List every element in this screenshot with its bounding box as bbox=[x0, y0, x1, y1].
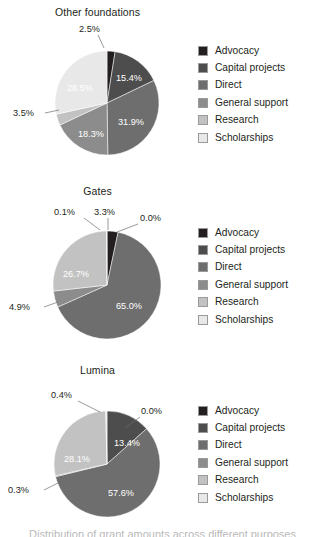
legend-item[interactable]: Scholarships bbox=[198, 489, 325, 506]
pie-graphic-0: 15.4%31.9%18.3%28.5%2.5%3.5% bbox=[0, 18, 195, 178]
footer-caption: Distribution of grant amounts across dif… bbox=[0, 528, 325, 537]
pie-graphic-2: 13.4%57.6%28.1%0.4%0.0%0.3% bbox=[0, 376, 195, 536]
pie-slice bbox=[54, 411, 107, 476]
legend-item[interactable]: Advocacy bbox=[198, 224, 325, 241]
leader-line bbox=[44, 483, 58, 490]
legend-item-label: Research bbox=[215, 297, 259, 307]
legend-swatch-icon bbox=[198, 98, 208, 108]
legend-swatch-icon bbox=[198, 80, 208, 90]
legend-item-label: Scholarships bbox=[215, 133, 273, 143]
legend-swatch-icon bbox=[198, 115, 208, 125]
legend-swatch-icon bbox=[198, 280, 208, 290]
legend-item-label: Advocacy bbox=[215, 46, 259, 56]
legend-item[interactable]: Direct bbox=[198, 259, 325, 276]
pie-slice bbox=[53, 231, 107, 291]
legend-item-label: Scholarships bbox=[215, 315, 273, 325]
legend-item[interactable]: Scholarships bbox=[198, 311, 325, 328]
legend-item-label: Research bbox=[215, 115, 259, 125]
legend-item[interactable]: Capital projects bbox=[198, 419, 325, 436]
legend-item[interactable]: Direct bbox=[198, 77, 325, 94]
legend-item[interactable]: Research bbox=[198, 294, 325, 311]
pie-chart-gates: Gates 65.0%26.7%0.1%3.3%0.0%4.9% Advocac… bbox=[0, 179, 325, 358]
slice-value-label: 2.5% bbox=[79, 24, 100, 34]
pie-chart-other-foundations: Other foundations 15.4%31.9%18.3%28.5%2.… bbox=[0, 0, 325, 179]
legend-item-label: Advocacy bbox=[215, 228, 259, 238]
legend-item-label: General support bbox=[215, 280, 288, 290]
legend-item-label: General support bbox=[215, 98, 288, 108]
legend-item[interactable]: General support bbox=[198, 94, 325, 111]
legend-item-label: Direct bbox=[215, 80, 242, 90]
legend-item-label: Capital projects bbox=[215, 245, 285, 255]
legend-0: AdvocacyCapital projectsDirectGeneral su… bbox=[198, 42, 325, 146]
legend-swatch-icon bbox=[198, 475, 208, 485]
legend-swatch-icon bbox=[198, 440, 208, 450]
slice-value-label: 28.5% bbox=[67, 83, 93, 93]
legend-swatch-icon bbox=[198, 297, 208, 307]
slice-value-label: 57.6% bbox=[108, 488, 134, 498]
slice-value-label: 28.1% bbox=[64, 454, 90, 464]
legend-swatch-icon bbox=[198, 458, 208, 468]
legend-swatch-icon bbox=[198, 423, 208, 433]
legend-item[interactable]: Capital projects bbox=[198, 241, 325, 258]
legend-item-label: Direct bbox=[215, 440, 242, 450]
chart-title-1: Gates bbox=[0, 185, 195, 197]
legend-2: AdvocacyCapital projectsDirectGeneral su… bbox=[198, 402, 325, 506]
legend-item[interactable]: Scholarships bbox=[198, 129, 325, 146]
slice-value-label: 0.0% bbox=[141, 406, 162, 416]
legend-item[interactable]: Research bbox=[198, 472, 325, 489]
legend-item[interactable]: General support bbox=[198, 454, 325, 471]
slice-value-label: 31.9% bbox=[118, 117, 144, 127]
legend-item-label: Scholarships bbox=[215, 493, 273, 503]
slice-value-label: 18.3% bbox=[78, 129, 104, 139]
legend-swatch-icon bbox=[198, 406, 208, 416]
legend-swatch-icon bbox=[198, 315, 208, 325]
chart-title-2: Lumina bbox=[0, 364, 195, 376]
legend-item[interactable]: Advocacy bbox=[198, 42, 325, 59]
legend-item[interactable]: Direct bbox=[198, 437, 325, 454]
slice-value-label: 4.9% bbox=[9, 302, 30, 312]
slice-value-label: 15.4% bbox=[116, 73, 142, 83]
legend-item-label: Capital projects bbox=[215, 423, 285, 433]
slice-value-label: 0.4% bbox=[51, 390, 72, 400]
pie-graphic-1: 65.0%26.7%0.1%3.3%0.0%4.9% bbox=[0, 197, 195, 357]
legend-swatch-icon bbox=[198, 493, 208, 503]
slice-value-label: 3.5% bbox=[13, 108, 34, 118]
leader-line bbox=[98, 35, 104, 48]
slice-value-label: 13.4% bbox=[114, 438, 140, 448]
slice-value-label: 3.3% bbox=[94, 207, 115, 217]
leader-line bbox=[84, 218, 100, 230]
slice-value-label: 26.7% bbox=[63, 269, 89, 279]
leader-line bbox=[78, 401, 100, 412]
leader-line bbox=[44, 302, 58, 307]
slice-value-label: 65.0% bbox=[116, 301, 142, 311]
legend-swatch-icon bbox=[198, 245, 208, 255]
legend-swatch-icon bbox=[198, 228, 208, 238]
legend-swatch-icon bbox=[198, 63, 208, 73]
legend-item-label: General support bbox=[215, 458, 288, 468]
slice-value-label: 0.3% bbox=[8, 485, 29, 495]
legend-swatch-icon bbox=[198, 46, 208, 56]
legend-item-label: Advocacy bbox=[215, 406, 259, 416]
legend-item[interactable]: Advocacy bbox=[198, 402, 325, 419]
legend-item[interactable]: Capital projects bbox=[198, 59, 325, 76]
pie-chart-lumina: Lumina 13.4%57.6%28.1%0.4%0.0%0.3% Advoc… bbox=[0, 358, 325, 537]
legend-swatch-icon bbox=[198, 133, 208, 143]
leader-line bbox=[117, 224, 138, 232]
legend-item-label: Research bbox=[215, 475, 259, 485]
legend-1: AdvocacyCapital projectsDirectGeneral su… bbox=[198, 224, 325, 328]
legend-swatch-icon bbox=[198, 262, 208, 272]
legend-item-label: Capital projects bbox=[215, 63, 285, 73]
legend-item-label: Direct bbox=[215, 262, 242, 272]
slice-value-label: 0.1% bbox=[54, 207, 75, 217]
chart-title-0: Other foundations bbox=[0, 6, 195, 18]
legend-item[interactable]: Research bbox=[198, 112, 325, 129]
legend-item[interactable]: General support bbox=[198, 276, 325, 293]
slice-value-label: 0.0% bbox=[140, 213, 161, 223]
